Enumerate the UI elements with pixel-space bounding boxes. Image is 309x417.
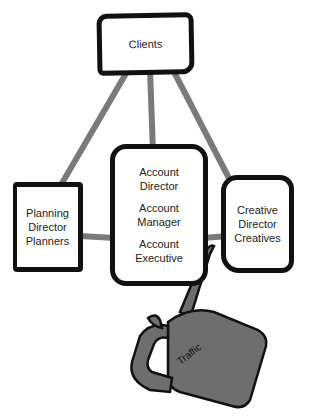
creative-line-3: Creatives <box>234 231 280 245</box>
planning-line-3: Planners <box>26 234 69 248</box>
creative-line-2: Director <box>238 217 277 231</box>
planning-line-2: Director <box>28 220 67 234</box>
creative-line-1: Creative <box>237 203 278 217</box>
node-planning: Planning Director Planners <box>13 182 83 272</box>
node-account-team: Account Director Account Manager Account… <box>110 144 208 286</box>
clients-label: Clients <box>129 37 163 52</box>
planning-line-1: Planning <box>26 206 69 220</box>
account-executive-label: Account Executive <box>135 237 183 265</box>
node-creative: Creative Director Creatives <box>221 175 294 273</box>
account-director-label: Account Director <box>139 165 179 193</box>
node-clients: Clients <box>96 12 194 76</box>
account-manager-label: Account Manager <box>137 201 180 229</box>
edge-clients-account <box>150 70 153 152</box>
